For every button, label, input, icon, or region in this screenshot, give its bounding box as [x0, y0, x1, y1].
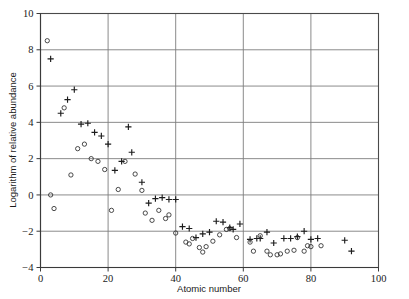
- x-axis-title: Atomic number: [177, 283, 241, 294]
- x-tick-label: 80: [306, 273, 317, 284]
- figure-background: [0, 0, 409, 299]
- x-tick-label: 20: [103, 273, 114, 284]
- y-tick-label: −2: [22, 226, 33, 237]
- y-tick-label: 0: [28, 190, 33, 201]
- y-axis-title: Logarithm of relative abundance: [7, 72, 18, 208]
- y-tick-label: 4: [28, 117, 34, 128]
- y-tick-label: 8: [28, 44, 33, 55]
- y-tick-label: 2: [28, 153, 33, 164]
- scatter-plot-svg: −4−20246810020406080100 Atomic number Lo…: [0, 0, 409, 299]
- y-tick-label: 6: [28, 81, 33, 92]
- x-tick-label: 0: [38, 273, 43, 284]
- y-tick-label: 10: [23, 8, 34, 19]
- x-tick-label: 100: [371, 273, 387, 284]
- y-tick-label: −4: [22, 262, 34, 273]
- abundance-scatter-figure: −4−20246810020406080100 Atomic number Lo…: [0, 0, 409, 299]
